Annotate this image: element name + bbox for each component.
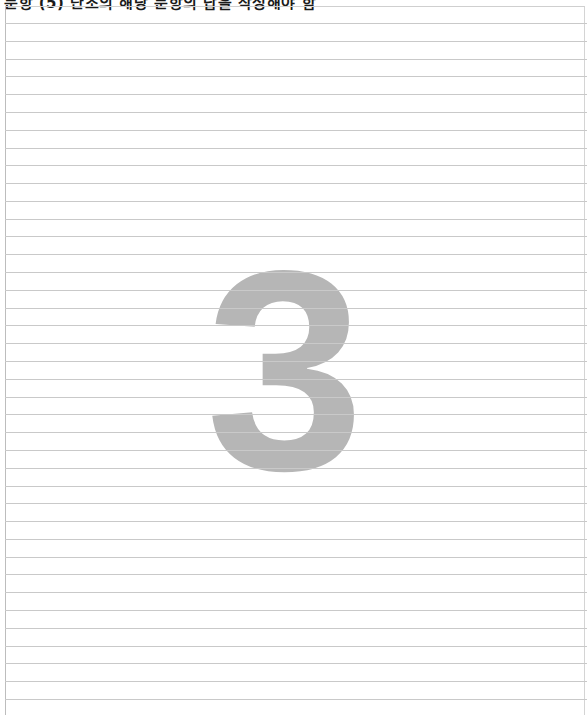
page-number-watermark: 3 [205,228,365,513]
